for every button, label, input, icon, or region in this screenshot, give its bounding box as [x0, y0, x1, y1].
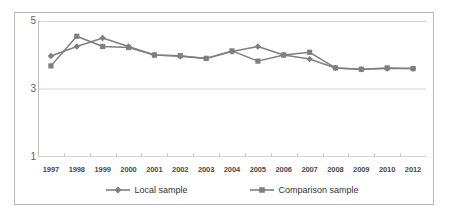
legend-label-comparison-sample: Comparison sample [278, 185, 358, 195]
x-axis: 1997199819992000200120022003200420052006… [38, 163, 426, 179]
gridlines [38, 22, 426, 157]
x-axis-tick-2006: 2006 [271, 163, 297, 179]
diamond-marker-icon [255, 43, 261, 49]
chart-frame: 5 3 1 199 [14, 12, 434, 205]
square-marker-icon [333, 65, 338, 70]
legend-label-local-sample: Local sample [134, 185, 187, 195]
x-axis-tick-2001: 2001 [141, 163, 167, 179]
x-axis-tick-2002: 2002 [167, 163, 193, 179]
line-chart: 5 3 1 199 [0, 0, 449, 217]
diamond-marker-icon [306, 56, 312, 62]
series-layer [48, 34, 417, 73]
chart-legend: Local sample Comparison sample [38, 181, 426, 199]
x-axis-tick-2007: 2007 [297, 163, 323, 179]
y-axis-tick-3: 3 [20, 84, 36, 94]
square-marker-icon [48, 63, 53, 68]
diamond-marker-icon [48, 53, 54, 59]
x-axis-tick-2008: 2008 [322, 163, 348, 179]
diamond-marker-icon [74, 43, 80, 49]
square-marker-icon [204, 56, 209, 61]
square-marker-icon [281, 52, 286, 57]
x-axis-tick-2003: 2003 [193, 163, 219, 179]
diamond-marker-icon [105, 185, 131, 195]
legend-item-local-sample: Local sample [105, 185, 187, 195]
square-marker-icon [229, 48, 234, 53]
square-marker-icon [74, 34, 79, 39]
square-marker-icon [255, 59, 260, 64]
y-axis: 5 3 1 [15, 13, 36, 198]
x-axis-tick-1998: 1998 [64, 163, 90, 179]
square-marker-icon [100, 44, 105, 49]
x-axis-tick-2004: 2004 [219, 163, 245, 179]
y-axis-tick-5: 5 [20, 16, 36, 26]
plot-svg [38, 21, 426, 157]
square-marker-icon [410, 66, 415, 71]
x-axis-tick-1999: 1999 [90, 163, 116, 179]
square-marker-icon [152, 52, 157, 57]
x-axis-tick-2005: 2005 [245, 163, 271, 179]
square-marker-icon [126, 45, 131, 50]
square-marker-icon [385, 65, 390, 70]
square-marker-icon [178, 53, 183, 58]
x-axis-tick-2012: 2012 [400, 163, 426, 179]
x-axis-tick-1997: 1997 [38, 163, 64, 179]
plot-area [38, 21, 426, 157]
diamond-marker-icon [99, 35, 105, 41]
y-axis-tick-1: 1 [20, 152, 36, 162]
square-marker-icon [249, 185, 275, 195]
x-axis-tick-2000: 2000 [116, 163, 142, 179]
square-marker-icon [307, 50, 312, 55]
square-marker-icon [359, 67, 364, 72]
x-axis-tick-2010: 2010 [374, 163, 400, 179]
x-axis-tick-2009: 2009 [348, 163, 374, 179]
legend-item-comparison-sample: Comparison sample [249, 185, 358, 195]
